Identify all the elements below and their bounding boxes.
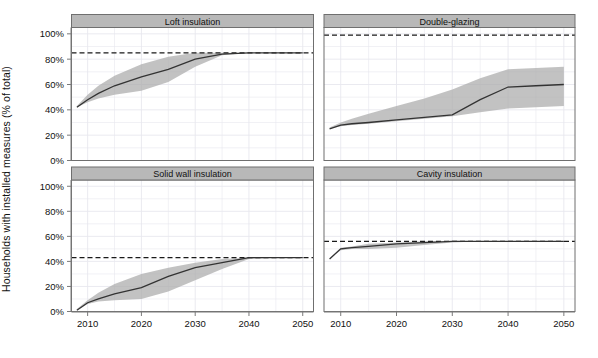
x-tick-label: 2040 — [497, 318, 518, 329]
y-tick-label: 20% — [45, 130, 65, 141]
strip-title: Cavity insulation — [417, 169, 483, 179]
strip-title: Solid wall insulation — [153, 169, 232, 179]
x-tick-label: 2050 — [292, 318, 313, 329]
x-tick-label: 2010 — [330, 318, 351, 329]
strip-title: Double-glazing — [419, 17, 479, 27]
x-tick-label: 2020 — [386, 318, 407, 329]
figure-root: Loft insulation0%20%40%60%80%100%Double-… — [0, 0, 598, 358]
y-tick-label: 100% — [40, 28, 65, 39]
x-tick-label: 2030 — [185, 318, 206, 329]
y-tick-label: 60% — [45, 79, 65, 90]
panel-double-glazing: Double-glazing — [324, 15, 575, 161]
faceted-line-chart: Loft insulation0%20%40%60%80%100%Double-… — [0, 0, 598, 358]
y-tick-label: 0% — [50, 306, 64, 317]
x-tick-label: 2020 — [131, 318, 152, 329]
panel-cavity-insulation: Cavity insulation20102020203020402050 — [324, 167, 575, 329]
y-tick-label: 20% — [45, 281, 65, 292]
panel-solid-wall-insulation: Solid wall insulation0%20%40%60%80%100%2… — [40, 167, 314, 329]
panel-loft-insulation: Loft insulation0%20%40%60%80%100% — [40, 15, 314, 166]
x-tick-label: 2010 — [77, 318, 98, 329]
x-tick-label: 2050 — [553, 318, 574, 329]
y-tick-label: 80% — [45, 54, 65, 65]
y-tick-label: 0% — [50, 155, 64, 166]
y-tick-label: 40% — [45, 104, 65, 115]
x-tick-label: 2040 — [238, 318, 259, 329]
strip-title: Loft insulation — [165, 17, 221, 27]
y-tick-label: 100% — [40, 181, 65, 192]
y-tick-label: 40% — [45, 256, 65, 267]
y-tick-label: 80% — [45, 206, 65, 217]
y-tick-label: 60% — [45, 231, 65, 242]
x-tick-label: 2030 — [442, 318, 463, 329]
